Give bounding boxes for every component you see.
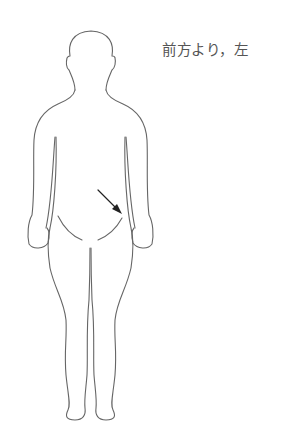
left-shoulder-outer-arm <box>28 90 75 248</box>
left-groin-line <box>58 216 82 240</box>
right-shoulder-outer-arm <box>106 90 153 248</box>
right-groin-line <box>98 218 122 240</box>
left-torso-side <box>48 137 90 420</box>
head-outline <box>66 31 115 90</box>
right-inner-arm <box>126 137 135 228</box>
body-outline-figure <box>0 0 285 448</box>
left-inner-arm <box>46 137 55 228</box>
right-torso-side <box>91 137 133 420</box>
